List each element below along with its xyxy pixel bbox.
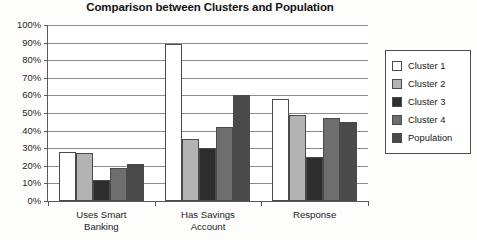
bar [59, 152, 76, 201]
x-axis-tick [155, 201, 156, 206]
x-axis-tick [368, 201, 369, 206]
bar [306, 157, 323, 201]
bar [93, 180, 110, 201]
bar [340, 122, 357, 201]
x-axis-category-label: Response [260, 209, 370, 221]
legend-item[interactable]: Cluster 3 [392, 93, 465, 111]
legend-swatch-icon [392, 115, 402, 125]
bar-group [48, 25, 155, 201]
y-axis-tick-label: 30% [22, 143, 41, 152]
legend-item-label: Cluster 2 [408, 79, 446, 88]
plot-area: 100%90%80%70%60%50%40%30%20%10%0% Uses S… [47, 25, 368, 202]
x-axis-category-label: Uses Smart Banking [46, 209, 156, 232]
x-axis-tick [261, 201, 262, 206]
bar [272, 99, 289, 201]
bar [76, 153, 93, 201]
legend-swatch-icon [392, 133, 402, 143]
bar [323, 118, 340, 201]
y-axis-tick-label: 60% [22, 91, 41, 100]
legend-item[interactable]: Population [392, 129, 465, 147]
legend-item[interactable]: Cluster 2 [392, 75, 465, 93]
y-axis-tick-label: 20% [22, 161, 41, 170]
x-axis-category-label: Has Savings Account [153, 209, 263, 232]
bar-group [261, 25, 368, 201]
legend-swatch-icon [392, 61, 402, 71]
chart-legend: Cluster 1Cluster 2Cluster 3Cluster 4Popu… [385, 50, 471, 154]
bar [233, 95, 250, 201]
y-axis-tick-label: 40% [22, 126, 41, 135]
bar [182, 139, 199, 201]
legend-item-label: Cluster 4 [408, 115, 446, 124]
legend-item-label: Cluster 1 [408, 61, 446, 70]
bar [110, 168, 127, 201]
chart-figure: Comparison between Clusters and Populati… [0, 0, 477, 240]
y-axis-tick-label: 100% [17, 20, 41, 29]
legend-swatch-icon [392, 97, 402, 107]
legend-item[interactable]: Cluster 4 [392, 111, 465, 129]
y-axis-tick-label: 10% [22, 179, 41, 188]
y-axis-tick-label: 90% [22, 38, 41, 47]
y-axis-tick-label: 0% [27, 196, 41, 205]
legend-item[interactable]: Cluster 1 [392, 57, 465, 75]
bar [127, 164, 144, 201]
bar [216, 127, 233, 201]
x-axis-tick [48, 201, 49, 206]
y-axis-tick-label: 80% [22, 55, 41, 64]
legend-item-label: Cluster 3 [408, 97, 446, 106]
bar-group [155, 25, 262, 201]
legend-swatch-icon [392, 79, 402, 89]
y-axis-tick-label: 70% [22, 73, 41, 82]
y-axis-tick-label: 50% [22, 108, 41, 117]
chart-title: Comparison between Clusters and Populati… [0, 1, 420, 13]
bar [165, 44, 182, 201]
legend-item-label: Population [408, 133, 452, 142]
bar [289, 115, 306, 201]
bar [199, 148, 216, 201]
